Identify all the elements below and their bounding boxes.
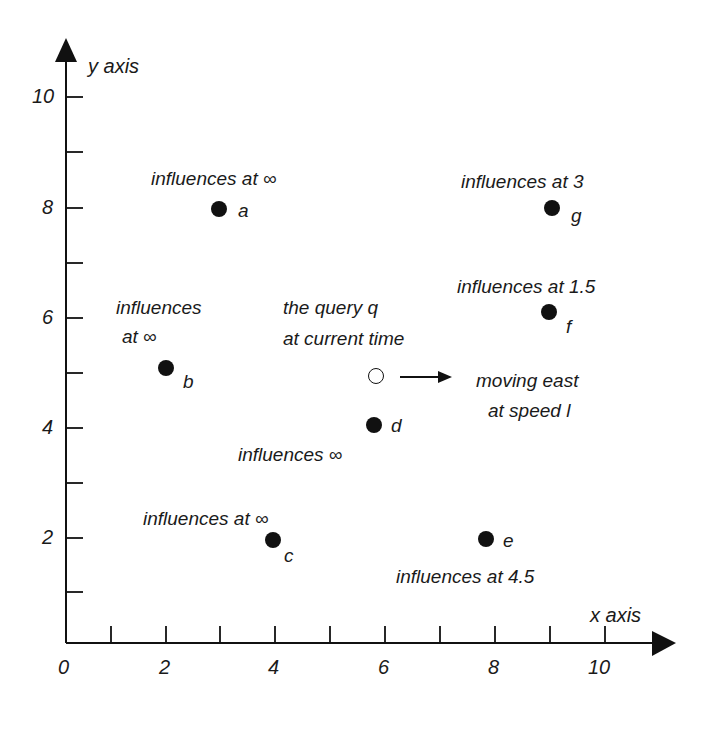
y-axis-label: y axis bbox=[88, 55, 139, 77]
point-c-marker bbox=[265, 532, 281, 548]
point-c-label: c bbox=[284, 545, 294, 567]
y-tick-label: 8 bbox=[42, 196, 53, 219]
point-f-label: f bbox=[566, 316, 571, 338]
point-e-annotation: influences at 4.5 bbox=[396, 566, 534, 588]
point-d-label: d bbox=[391, 415, 402, 437]
point-b-annotation-line2: at ∞ bbox=[122, 326, 157, 348]
point-g-label: g bbox=[571, 205, 582, 227]
point-g-annotation: influences at 3 bbox=[461, 171, 584, 193]
x-tick-label: 0 bbox=[58, 656, 69, 679]
point-d-marker bbox=[366, 417, 382, 433]
point-g-marker bbox=[544, 200, 560, 216]
y-ticks bbox=[66, 97, 83, 592]
x-tick-label: 6 bbox=[378, 656, 389, 679]
x-tick-label: 10 bbox=[588, 656, 610, 679]
query-motion-line2: at speed l bbox=[488, 400, 570, 422]
y-tick-label: 4 bbox=[42, 416, 53, 439]
x-axis-label: x axis bbox=[590, 604, 641, 626]
point-b-annotation-line1: influences bbox=[116, 297, 202, 319]
x-tick-label: 8 bbox=[488, 656, 499, 679]
point-e-label: e bbox=[503, 530, 514, 552]
x-tick-label: 4 bbox=[268, 656, 279, 679]
point-b-label: b bbox=[183, 371, 194, 393]
x-ticks bbox=[111, 626, 605, 643]
y-tick-label: 2 bbox=[42, 526, 53, 549]
point-c-annotation: influences at ∞ bbox=[143, 508, 269, 530]
point-a-marker bbox=[211, 201, 227, 217]
point-e-marker bbox=[478, 531, 494, 547]
motion-arrow-icon bbox=[438, 371, 452, 383]
y-tick-label: 6 bbox=[42, 306, 53, 329]
x-tick-label: 2 bbox=[159, 656, 170, 679]
query-motion-line1: moving east bbox=[476, 370, 578, 392]
point-a-label: a bbox=[238, 200, 249, 222]
point-f-annotation: influences at 1.5 bbox=[457, 276, 595, 298]
y-tick-label: 10 bbox=[32, 85, 54, 108]
point-b-marker bbox=[158, 360, 174, 376]
query-annotation-line2: at current time bbox=[283, 328, 404, 350]
x-axis-arrow-icon bbox=[652, 631, 676, 656]
point-d-annotation: influences ∞ bbox=[238, 444, 342, 466]
y-axis-arrow-icon bbox=[55, 38, 77, 62]
point-a-annotation: influences at ∞ bbox=[151, 168, 277, 190]
query-annotation-line1: the query q bbox=[283, 297, 378, 319]
query-point-marker bbox=[368, 368, 384, 384]
point-f-marker bbox=[541, 304, 557, 320]
